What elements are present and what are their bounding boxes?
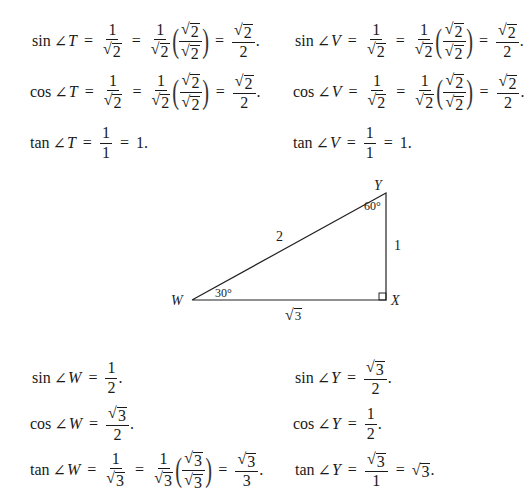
left-paren: ( [175,453,182,487]
sqrt-symbol: √ [106,470,115,487]
angle-Y-label: 60° [364,199,381,214]
fraction: 1√3 [152,451,175,490]
denominator: 2 [365,425,377,443]
period: . [259,461,263,479]
tan-W-equation: tan ∠ W = 1√3 = 1√3 ( √3√3 ) = √33 . [30,450,263,490]
angle-var: Y [332,415,341,433]
side-WX-label: √3 [285,306,302,324]
denominator: 2 [111,426,123,444]
radicand: 3 [246,453,256,470]
fn-label: cos [30,415,51,433]
fn-label: tan [30,461,50,479]
hypotenuse-label: 2 [276,229,283,245]
angle-var: Y [331,369,340,387]
radicand: 3 [375,361,385,378]
cos-W-equation: cos ∠ W = √32 . [30,404,134,444]
sqrt-symbol: √ [184,450,193,467]
equals: = [88,369,97,387]
period: . [130,415,134,433]
vertex-W-label: W [171,293,183,309]
radicand: 3 [163,472,173,489]
angle-symbol: ∠ [317,369,330,388]
sin-W-equation: sin ∠ W = 12 . [32,358,122,398]
numerator: 1 [158,451,170,470]
fraction: √33 [235,451,258,490]
right-paren: ) [205,453,212,487]
result-radical: √3 [412,461,431,480]
fraction: √32 [364,359,387,398]
sqrt-symbol: √ [108,405,117,422]
angle-symbol: ∠ [53,461,66,480]
angle-symbol: ∠ [317,415,330,434]
fn-label: sin [295,369,314,387]
sqrt-symbol: √ [366,359,375,376]
period: . [520,32,524,50]
fraction: √31 [365,451,388,490]
numerator: 1 [110,451,122,470]
denominator: 3 [241,472,253,490]
angle-var: W [67,461,80,479]
fraction: √32 [106,405,129,444]
equals: = [89,415,98,433]
tan-Y-equation: tan ∠ Y = √31 = √3 . [295,450,434,490]
equals: = [347,369,356,387]
fn-label: sin [32,369,51,387]
angle-var: W [68,369,81,387]
fraction: √3√3 [182,450,205,491]
equals: = [348,461,357,479]
angle-var: Y [332,461,341,479]
fraction: 1√3 [104,451,127,490]
denominator: 2 [105,379,117,397]
numerator: 1 [365,406,377,425]
vertex-Y-label: Y [374,178,382,194]
period: . [388,369,392,387]
equals: = [218,461,227,479]
sqrt-symbol: √ [184,472,193,489]
denominator: 1 [370,472,382,490]
sin-Y-equation: sin ∠ Y = √32 . [295,358,392,398]
angle-var: W [69,415,82,433]
sqrt-symbol: √ [154,470,163,487]
sqrt-symbol: √ [285,306,294,324]
angle-symbol: ∠ [54,415,67,434]
denominator: 2 [369,380,381,398]
fn-label: cos [293,415,314,433]
vertex-X-label: X [391,293,400,309]
period: . [430,461,434,479]
equals: = [87,461,96,479]
period: . [520,83,524,101]
radicand: 3 [294,308,303,322]
sqrt-symbol: √ [367,451,376,468]
sqrt-symbol: √ [412,461,421,479]
side-XY-label: 1 [394,238,401,254]
angle-W-label: 30° [215,286,232,301]
fraction: 12 [105,360,117,397]
period: . [378,415,382,433]
radicand: 3 [420,463,430,480]
numerator: 1 [105,360,117,379]
equals: = [396,461,405,479]
radicand: 3 [376,453,386,470]
fn-label: tan [295,461,315,479]
angle-symbol: ∠ [54,369,67,388]
period: . [118,369,122,387]
cos-Y-equation: cos ∠ Y = 12 . [293,404,382,444]
equals: = [348,415,357,433]
fraction: 12 [365,406,377,443]
radicand: 3 [117,407,127,424]
sqrt-symbol: √ [237,451,246,468]
radicand: 3 [115,472,125,489]
equals: = [135,461,144,479]
angle-symbol: ∠ [318,461,331,480]
radicand: 3 [193,474,203,491]
radicand: 3 [193,452,203,469]
